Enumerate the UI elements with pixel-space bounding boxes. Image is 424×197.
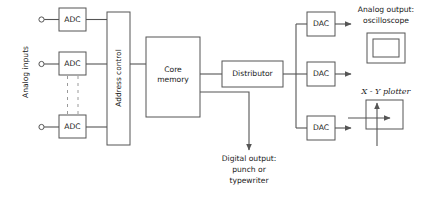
xy-plotter-illustration: X - Y plotter [348, 87, 412, 146]
analog-input-channel-bottom [39, 124, 59, 129]
distributor-label: Distributor [232, 69, 273, 78]
adc-middle-label: ADC [64, 59, 80, 68]
address-control-block: Address control [107, 12, 146, 145]
analog-input-channel-top [39, 17, 59, 22]
adc-block-bottom: ADC [59, 115, 107, 138]
digital-output-label-line2: punch or [232, 165, 266, 174]
oscilloscope-illustration: Analog output: oscilloscope [358, 5, 414, 63]
core-memory-label-line2: memory [157, 75, 189, 84]
dac-block-middle: DAC [307, 62, 351, 86]
analog-input-channel-middle [39, 61, 59, 66]
input-terminal-top [39, 17, 44, 22]
core-memory-to-digital-output [200, 92, 249, 150]
oscilloscope-screen [373, 39, 399, 57]
analog-output-label-line2: oscilloscope [363, 16, 409, 25]
block-diagram: Analog inputs ADC ADC ADC Address contro… [0, 0, 424, 197]
dac-bottom-label: DAC [313, 123, 329, 132]
diagram-canvas: Analog inputs ADC ADC ADC Address contro… [0, 0, 424, 197]
digital-output-label-line3: typewriter [229, 176, 269, 185]
input-terminal-bottom [39, 124, 44, 129]
dac-top-label: DAC [313, 19, 329, 28]
analog-inputs-label: Analog inputs [21, 46, 30, 98]
core-memory-block: Core memory [146, 37, 249, 150]
analog-output-label-line1: Analog output: [358, 5, 414, 14]
input-terminal-middle [39, 61, 44, 66]
dac-distribution-bus [296, 24, 307, 128]
adc-block-top: ADC [59, 8, 107, 31]
address-control-label: Address control [114, 49, 123, 106]
xy-plotter-label: X - Y plotter [361, 87, 412, 96]
adc-top-label: ADC [64, 15, 80, 24]
dac-block-top: DAC [307, 12, 351, 36]
adc-block-middle: ADC [59, 52, 107, 75]
xy-plotter-box [366, 100, 403, 129]
distributor-block: Distributor [222, 61, 296, 87]
digital-output-caption: Digital output: punch or typewriter [222, 154, 277, 185]
core-memory-label-line1: Core [164, 65, 182, 74]
adc-bottom-label: ADC [64, 122, 80, 131]
dac-middle-label: DAC [313, 69, 329, 78]
dac-block-bottom: DAC [307, 116, 351, 140]
digital-output-label-line1: Digital output: [222, 154, 277, 163]
